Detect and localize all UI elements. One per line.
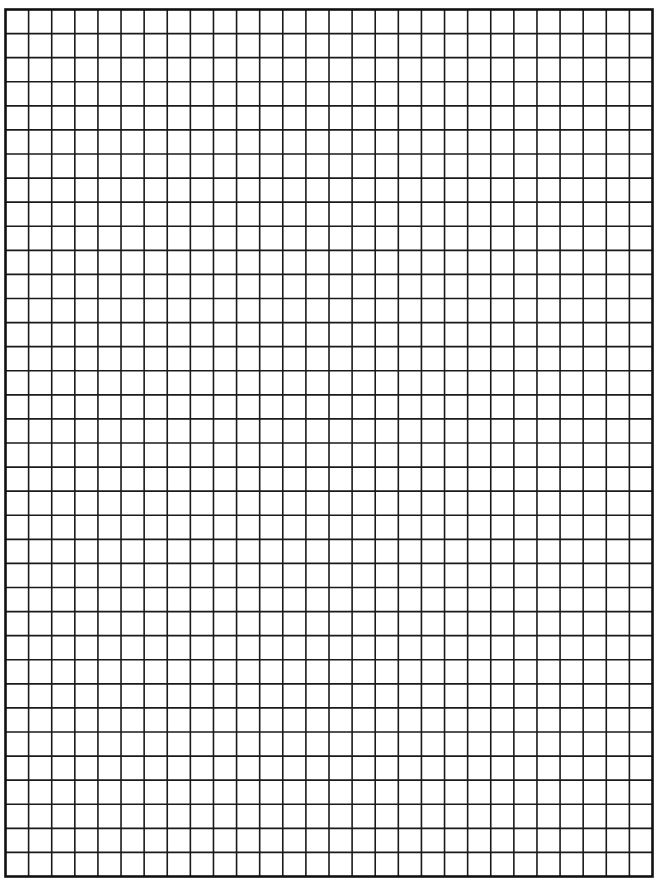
graph-paper-page	[0, 0, 655, 882]
graph-paper-grid	[0, 0, 655, 882]
grid-lines	[6, 10, 653, 877]
